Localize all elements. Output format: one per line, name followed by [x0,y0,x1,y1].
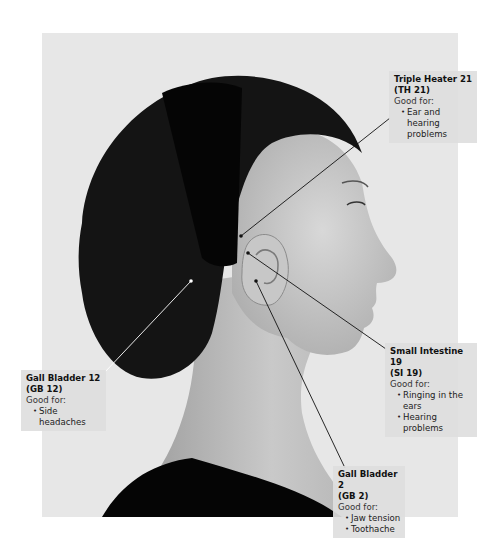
benefits-list: Jaw tension Toothache [338,513,401,535]
point-title: Gall Bladder 12 [26,373,102,384]
point-title: Small Intestine 19 [390,346,473,368]
benefit-item: Hearing problems [397,412,473,434]
benefit-item: Ear and hearingproblems [401,107,473,140]
label-triple-heater-21: Triple Heater 21 (TH 21) Good for: Ear a… [389,71,477,143]
point-code: (SI 19) [390,368,473,379]
benefits-list: Side headaches [26,406,102,428]
benefit-item: Jaw tension [345,513,401,524]
benefit-item: Toothache [345,524,401,535]
benefits-list: Ear and hearingproblems [394,107,473,140]
good-for-label: Good for: [338,502,401,513]
label-small-intestine-19: Small Intestine 19 (SI 19) Good for: Rin… [385,343,477,437]
point-code: (TH 21) [394,85,473,96]
point-code: (GB 2) [338,491,401,502]
label-gall-bladder-2: Gall Bladder 2 (GB 2) Good for: Jaw tens… [333,466,405,538]
point-title: Triple Heater 21 [394,74,473,85]
good-for-label: Good for: [390,379,473,390]
point-code: (GB 12) [26,384,102,395]
benefits-list: Ringing in the ears Hearing problems [390,390,473,434]
benefit-item: Side headaches [33,406,102,428]
benefit-item: Ringing in the ears [397,390,473,412]
label-gall-bladder-12: Gall Bladder 12 (GB 12) Good for: Side h… [21,370,106,431]
good-for-label: Good for: [394,96,473,107]
good-for-label: Good for: [26,395,102,406]
point-title: Gall Bladder 2 [338,469,401,491]
